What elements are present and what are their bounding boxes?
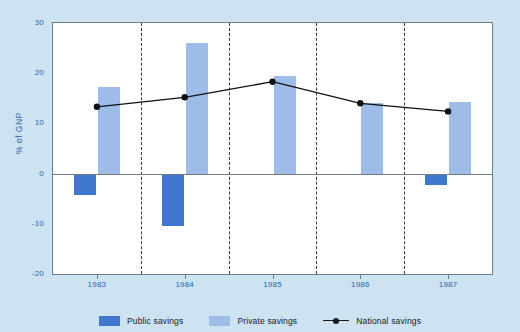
national-savings-marker	[182, 94, 188, 100]
y-axis-tick-label: 0	[18, 169, 44, 178]
plot-area	[52, 22, 493, 275]
legend-item-label: National savings	[356, 316, 421, 326]
x-axis-tick-label: 1983	[75, 280, 119, 289]
plot-inner	[53, 23, 492, 274]
color-swatch-icon	[99, 316, 120, 326]
national-savings-marker	[357, 100, 363, 106]
national-savings-line	[53, 23, 492, 274]
legend-item: National savings	[323, 316, 421, 326]
national-savings-marker	[269, 79, 275, 85]
national-savings-marker	[445, 108, 451, 114]
chart-figure: % of GNP 3020100-10-20 19831984198519861…	[0, 0, 520, 332]
legend-item-label: Public savings	[127, 316, 183, 326]
line-marker-icon	[323, 316, 349, 326]
chart-legend: Public savingsPrivate savingsNational sa…	[0, 316, 520, 326]
color-swatch-icon	[209, 316, 230, 326]
y-axis-tick-label: 30	[18, 18, 44, 27]
y-axis-tick-label: 10	[18, 118, 44, 127]
national-savings-marker	[94, 104, 100, 110]
x-axis-tick-label: 1986	[338, 280, 382, 289]
x-axis-tick-label: 1985	[251, 280, 295, 289]
x-axis-tick-label: 1987	[426, 280, 470, 289]
y-axis-tick-label: -20	[18, 269, 44, 278]
y-axis-tick-label: -10	[18, 219, 44, 228]
y-axis-tick-label: 20	[18, 68, 44, 77]
legend-item-label: Private savings	[237, 316, 297, 326]
legend-item: Public savings	[99, 316, 183, 326]
legend-item: Private savings	[209, 316, 297, 326]
national-savings-polyline	[97, 82, 448, 112]
x-axis-tick-label: 1984	[163, 280, 207, 289]
